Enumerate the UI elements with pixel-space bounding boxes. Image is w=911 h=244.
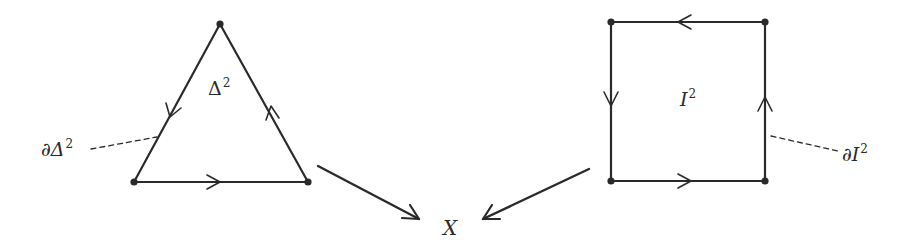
triangle-right-edge bbox=[220, 24, 308, 182]
triangle-boundary-leader bbox=[91, 137, 157, 149]
square-boundary-label-base: ∂I bbox=[842, 143, 859, 165]
square-boundary-leader bbox=[771, 136, 838, 151]
map-triangle-to-x bbox=[318, 166, 419, 219]
square-label-exponent: 2 bbox=[689, 87, 697, 101]
target-space-label: X bbox=[443, 218, 457, 238]
square-label: I2 bbox=[680, 88, 696, 109]
map-square-to-x bbox=[483, 169, 589, 219]
vertex-dot bbox=[761, 177, 768, 184]
vertex-dot bbox=[761, 18, 768, 25]
diagram-svg bbox=[0, 0, 911, 244]
triangle-label-base: Δ bbox=[208, 77, 222, 99]
vertex-dot bbox=[304, 178, 311, 185]
triangle-simplex bbox=[134, 24, 308, 189]
triangle-boundary-label: ∂Δ2 bbox=[41, 138, 73, 159]
triangle-label: Δ2 bbox=[208, 77, 230, 98]
square-label-base: I bbox=[680, 88, 688, 110]
vertex-dot bbox=[607, 18, 614, 25]
triangle-left-edge bbox=[134, 24, 220, 182]
triangle-boundary-label-exponent: 2 bbox=[66, 137, 74, 151]
diagram-canvas: Δ2 ∂Δ2 I2 ∂I2 X bbox=[0, 0, 911, 244]
triangle-boundary-label-base: ∂Δ bbox=[41, 138, 65, 160]
square-boundary-label: ∂I2 bbox=[842, 143, 868, 164]
triangle-label-exponent: 2 bbox=[223, 76, 231, 90]
square-boundary-label-exponent: 2 bbox=[860, 142, 868, 156]
vertex-dot bbox=[130, 178, 137, 185]
vertex-dot bbox=[216, 20, 223, 27]
vertex-dot bbox=[607, 177, 614, 184]
